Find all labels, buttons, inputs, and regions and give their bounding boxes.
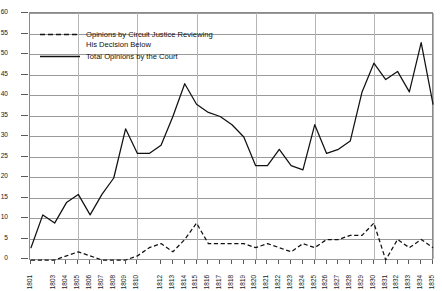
x-axis-tick-label: 1814 [181, 275, 187, 289]
x-axis-tick-label: 1816 [204, 275, 210, 289]
y-axis-tick-label: 55 [0, 29, 8, 36]
x-axis-tick-label: 1801 [27, 275, 33, 289]
y-axis-tick-mark [21, 12, 28, 13]
x-axis-tick-label: 1818 [228, 275, 234, 289]
y-axis-tick-mark [21, 115, 28, 116]
x-axis-tick-mark [397, 260, 398, 264]
chart-container: 051015202530354045505560 180118031804180… [0, 0, 442, 291]
x-axis-tick-mark [231, 260, 232, 264]
x-axis-tick-label: 1829 [358, 275, 364, 289]
y-axis-tick-label: 20 [0, 173, 8, 180]
y-axis-tick-label: 35 [0, 111, 8, 118]
x-axis-tick-mark [54, 260, 55, 264]
y-axis-tick-label: 60 [0, 9, 8, 16]
x-axis-tick-mark [243, 260, 244, 264]
x-axis-tick-label: 1807 [98, 275, 104, 289]
legend-label-total-opinions: Total Opinions by the Court [86, 52, 178, 62]
x-axis-tick-mark [337, 260, 338, 264]
y-axis-tick-mark [21, 176, 28, 177]
x-axis-tick-label: 1834 [417, 275, 423, 289]
x-axis-tick-label: 1828 [346, 275, 352, 289]
x-axis-tick-mark [219, 260, 220, 264]
solid-line-swatch [40, 52, 80, 61]
x-axis-tick-label: 1823 [287, 275, 293, 289]
x-axis-tick-label: 1833 [405, 275, 411, 289]
x-axis-tick-label: 1809 [121, 275, 127, 289]
x-axis-tick-mark [432, 260, 433, 264]
x-axis-tick-mark [172, 260, 173, 264]
x-axis-tick-label: 1810 [133, 275, 139, 289]
legend-item-total-opinions: Total Opinions by the Court [40, 52, 213, 62]
x-axis-tick-mark [89, 260, 90, 264]
y-axis-tick-mark [21, 135, 28, 136]
x-axis-tick-label: 1808 [110, 275, 116, 289]
x-axis-tick-mark [207, 260, 208, 264]
x-axis-tick-label: 1806 [86, 275, 92, 289]
y-axis-tick-mark [21, 217, 28, 218]
x-axis-tick-mark [373, 260, 374, 264]
y-axis-tick-mark [21, 53, 28, 54]
y-axis-tick-label: 15 [0, 193, 8, 200]
x-axis-tick-mark [408, 260, 409, 264]
x-axis-tick-mark [314, 260, 315, 264]
x-axis-tick-mark [125, 260, 126, 264]
x-axis-tick-mark [30, 260, 31, 264]
x-axis-tick-mark [349, 260, 350, 264]
x-axis-tick-mark [361, 260, 362, 264]
dashed-line-swatch [40, 30, 80, 39]
y-axis-tick-label: 40 [0, 91, 8, 98]
x-axis-tick-mark [77, 260, 78, 264]
x-axis-tick-label: 1804 [62, 275, 68, 289]
y-axis-tick-label: 0 [0, 255, 8, 262]
y-axis-tick-mark [21, 94, 28, 95]
x-axis-tick-label: 1827 [334, 275, 340, 289]
y-axis-tick-label: 50 [0, 50, 8, 57]
x-axis-tick-mark [113, 260, 114, 264]
y-axis-tick-mark [21, 258, 28, 259]
x-axis-tick-mark [196, 260, 197, 264]
x-axis-tick-label: 1819 [240, 275, 246, 289]
x-axis-tick-label: 1825 [311, 275, 317, 289]
legend-item-circuit-justice: Opinions by Circuit Justice Reviewing Hi… [40, 30, 213, 51]
x-axis-tick-label: 1830 [370, 275, 376, 289]
x-axis-tick-label: 1805 [74, 275, 80, 289]
x-axis-tick-label: 1821 [263, 275, 269, 289]
x-axis-tick-label: 1832 [393, 275, 399, 289]
y-axis-tick-mark [21, 33, 28, 34]
x-axis-tick-label: 1817 [216, 275, 222, 289]
x-axis-tick-mark [385, 260, 386, 264]
x-axis-tick-mark [290, 260, 291, 264]
x-axis-tick-mark [101, 260, 102, 264]
y-axis-tick-mark [21, 74, 28, 75]
x-axis-tick-mark [326, 260, 327, 264]
x-axis-tick-label: 1813 [169, 275, 175, 289]
series-line-total-opinions [31, 43, 433, 248]
legend-label-circuit-justice: Opinions by Circuit Justice Reviewing Hi… [86, 30, 213, 51]
x-axis-tick-mark [160, 260, 161, 264]
y-axis-tick-mark [21, 197, 28, 198]
x-axis-tick-mark [420, 260, 421, 264]
y-axis-tick-mark [21, 238, 28, 239]
x-axis-tick-mark [278, 260, 279, 264]
y-axis-tick-mark [21, 156, 28, 157]
x-axis-tick-mark [136, 260, 137, 264]
y-axis-tick-label: 30 [0, 132, 8, 139]
x-axis-tick-label: 1826 [322, 275, 328, 289]
series-line-circuit-justice [31, 223, 433, 260]
x-axis-tick-label: 1815 [192, 275, 198, 289]
x-axis-tick-label: 1803 [50, 275, 56, 289]
chart-legend: Opinions by Circuit Justice Reviewing Hi… [40, 30, 213, 63]
x-axis-tick-mark [302, 260, 303, 264]
y-axis-tick-label: 45 [0, 70, 8, 77]
x-axis-tick-mark [255, 260, 256, 264]
x-axis-tick-mark [65, 260, 66, 264]
x-axis-tick-label: 1812 [157, 275, 163, 289]
y-axis-tick-label: 25 [0, 152, 8, 159]
x-axis-tick-mark [184, 260, 185, 264]
x-axis-tick-label: 1822 [275, 275, 281, 289]
x-axis-tick-label: 1835 [429, 275, 435, 289]
x-axis-tick-label: 1831 [382, 275, 388, 289]
x-axis-tick-mark [266, 260, 267, 264]
x-axis-tick-label: 1824 [299, 275, 305, 289]
x-axis-tick-label: 1820 [251, 275, 257, 289]
